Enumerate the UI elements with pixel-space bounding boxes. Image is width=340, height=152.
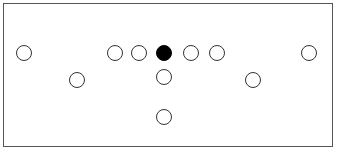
open-circle-icon bbox=[301, 45, 317, 61]
open-circle-icon bbox=[156, 109, 172, 125]
open-circle-icon bbox=[156, 69, 172, 85]
open-circle-icon bbox=[245, 72, 261, 88]
filled-circle-icon bbox=[156, 45, 172, 61]
open-circle-icon bbox=[209, 45, 225, 61]
open-circle-icon bbox=[131, 45, 147, 61]
open-circle-icon bbox=[69, 72, 85, 88]
open-circle-icon bbox=[183, 45, 199, 61]
open-circle-icon bbox=[16, 45, 32, 61]
open-circle-icon bbox=[107, 45, 123, 61]
